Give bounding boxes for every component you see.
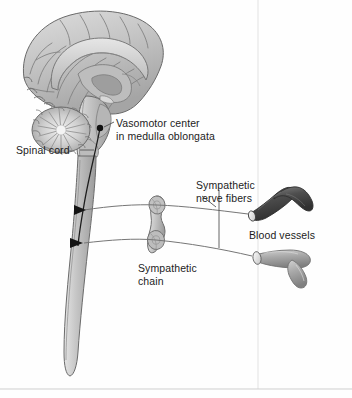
nerve-fiber-lower	[84, 239, 252, 256]
label-vasomotor-center: Vasomotor center in medulla oblongata	[116, 117, 215, 142]
nerve-fiber-upper	[84, 205, 248, 214]
sympathetic-chain	[146, 195, 166, 253]
blood-vessel-dilated	[252, 250, 310, 288]
blood-vessel-constricted	[247, 187, 313, 222]
spinal-cord	[64, 156, 96, 376]
brain-sagittal-section	[23, 11, 163, 376]
label-spinal-cord: Spinal cord	[16, 144, 70, 157]
label-blood-vessels: Blood vessels	[249, 229, 315, 242]
anatomical-diagram	[0, 0, 352, 398]
sympathetic-nerve-fibers	[84, 205, 252, 256]
label-sympathetic-nerve-fibers: Sympathetic nerve fibers	[196, 179, 255, 204]
label-sympathetic-chain: Sympathetic chain	[138, 262, 197, 287]
vasomotor-center-dot	[97, 125, 103, 131]
